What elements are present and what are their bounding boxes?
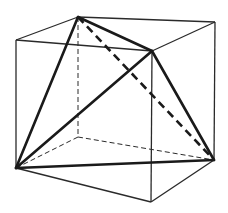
cube-edge-back-top-right-to-front-top-right — [152, 22, 215, 51]
cube-edge-back-top-left-to-back-top-right — [78, 17, 215, 22]
cube-tetrahedron-diagram — [0, 0, 228, 213]
tetrahedron-visible-edges — [16, 17, 214, 168]
cube-edge-front-bottom-right-to-front-bottom-left — [16, 168, 151, 202]
cube-edge-front-top-right-to-front-bottom-right — [151, 51, 152, 202]
cube-edge-back-top-right-to-back-bottom-right — [214, 22, 215, 160]
tetrahedron-edge-front-top-right-to-front-bottom-left — [16, 51, 152, 168]
cube-edge-back-bottom-right-to-front-bottom-right — [151, 160, 214, 202]
tetrahedron-hidden-edge-back-top-left-to-back-bottom-right — [78, 17, 214, 160]
tetrahedron-hidden-edges — [78, 17, 214, 160]
tetrahedron-edge-back-top-left-to-front-bottom-left — [16, 17, 78, 168]
tetrahedron-edge-front-bottom-left-to-back-bottom-right — [16, 160, 214, 168]
cube-hidden-edge-back-bottom-left-to-back-bottom-right — [78, 137, 214, 160]
